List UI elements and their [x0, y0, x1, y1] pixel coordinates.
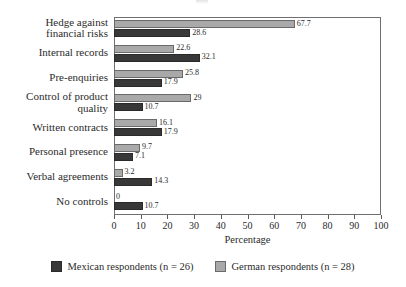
bar-mexican	[114, 103, 143, 111]
x-axis-tick-label: 0	[102, 220, 126, 231]
bar-mexican	[114, 128, 162, 136]
bar-group: 3.214.3	[114, 166, 381, 191]
bar-value-label: 29	[193, 94, 201, 102]
bar-mexican	[114, 29, 190, 37]
legend-item-german: German respondents (n = 28)	[215, 261, 354, 272]
bar-group: 9.77.1	[114, 141, 381, 166]
category-label: No controls	[0, 196, 108, 208]
bar-value-label: 9.7	[142, 143, 152, 151]
category-label-line: Control of product	[0, 91, 108, 103]
category-axis-labels: Hedge againstfinancial risksInternal rec…	[0, 17, 110, 215]
bar-german	[114, 20, 295, 28]
x-axis-tick-label: 80	[316, 220, 340, 231]
bar-german	[114, 45, 174, 53]
category-label-line: No controls	[0, 196, 108, 208]
bar-groups: 67.728.622.632.125.817.92910.716.117.99.…	[114, 17, 381, 215]
x-axis-tick	[141, 215, 142, 219]
x-axis-title: Percentage	[114, 234, 381, 245]
x-axis-tick	[328, 215, 329, 219]
x-axis-tick	[248, 215, 249, 219]
x-axis-tick-label: 50	[236, 220, 260, 231]
bar-chart-figure: Hedge againstfinancial risksInternal rec…	[0, 0, 406, 287]
bar-group: 16.117.9	[114, 116, 381, 141]
bar-value-label: 10.7	[145, 202, 159, 210]
x-axis-tick	[381, 215, 382, 219]
bar-mexican	[114, 202, 143, 210]
bar-value-label: 3.2	[125, 168, 135, 176]
category-label: Control of productquality	[0, 91, 108, 114]
bar-group: 25.817.9	[114, 67, 381, 92]
bar-mexican	[114, 79, 162, 87]
x-axis-tick-label: 30	[182, 220, 206, 231]
bar-value-label: 16.1	[159, 119, 173, 127]
category-label: Pre-enquiries	[0, 72, 108, 84]
x-axis-tick-label: 70	[289, 220, 313, 231]
bar-group: 67.728.6	[114, 17, 381, 42]
category-label-line: Personal presence	[0, 146, 108, 158]
bar-german	[114, 169, 123, 177]
category-label-line: Written contracts	[0, 122, 108, 134]
x-axis-tick	[301, 215, 302, 219]
category-label: Written contracts	[0, 122, 108, 134]
x-axis-tick	[221, 215, 222, 219]
x-axis-tick-label: 100	[369, 220, 393, 231]
category-label: Internal records	[0, 47, 108, 59]
bar-value-label: 25.8	[185, 69, 199, 77]
legend-item-mexican: Mexican respondents (n = 26)	[51, 261, 193, 272]
bar-mexican	[114, 178, 152, 186]
bar-value-label: 14.3	[154, 177, 168, 185]
bar-german	[114, 119, 157, 127]
bar-mexican	[114, 54, 200, 62]
bar-value-label: 32.1	[202, 53, 216, 61]
bar-value-label: 7.1	[135, 152, 145, 160]
category-label: Personal presence	[0, 146, 108, 158]
legend-swatch-mexican	[51, 261, 62, 272]
x-axis-tick-label: 40	[209, 220, 233, 231]
category-label-line: financial risks	[0, 28, 108, 40]
chart-legend: Mexican respondents (n = 26) German resp…	[0, 256, 406, 276]
bar-value-label: 0	[116, 193, 120, 201]
category-label-line: Internal records	[0, 47, 108, 59]
x-axis-tick-label: 60	[262, 220, 286, 231]
category-label: Verbal agreements	[0, 171, 108, 183]
x-axis-tick	[194, 215, 195, 219]
category-label: Hedge againstfinancial risks	[0, 17, 108, 40]
bar-value-label: 10.7	[145, 103, 159, 111]
bar-value-label: 17.9	[164, 128, 178, 136]
x-axis-tick-label: 90	[342, 220, 366, 231]
bar-value-label: 17.9	[164, 78, 178, 86]
legend-label-mexican: Mexican respondents (n = 26)	[67, 261, 193, 272]
legend-label-german: German respondents (n = 28)	[231, 261, 354, 272]
x-axis-tick	[167, 215, 168, 219]
page-edge-artifact	[196, 0, 208, 4]
category-label-line: quality	[0, 103, 108, 115]
x-axis-tick-label: 10	[129, 220, 153, 231]
x-axis-tick	[354, 215, 355, 219]
x-axis-tick-label: 20	[155, 220, 179, 231]
bar-value-label: 22.6	[176, 44, 190, 52]
category-label-line: Verbal agreements	[0, 171, 108, 183]
bar-group: 010.7	[114, 190, 381, 215]
x-axis-tick	[274, 215, 275, 219]
bar-group: 22.632.1	[114, 42, 381, 67]
bar-group: 2910.7	[114, 91, 381, 116]
category-label-line: Pre-enquiries	[0, 72, 108, 84]
bar-value-label: 67.7	[297, 20, 311, 28]
bar-mexican	[114, 153, 133, 161]
bar-value-label: 28.6	[192, 29, 206, 37]
x-axis-tick	[114, 215, 115, 219]
legend-swatch-german	[215, 261, 226, 272]
